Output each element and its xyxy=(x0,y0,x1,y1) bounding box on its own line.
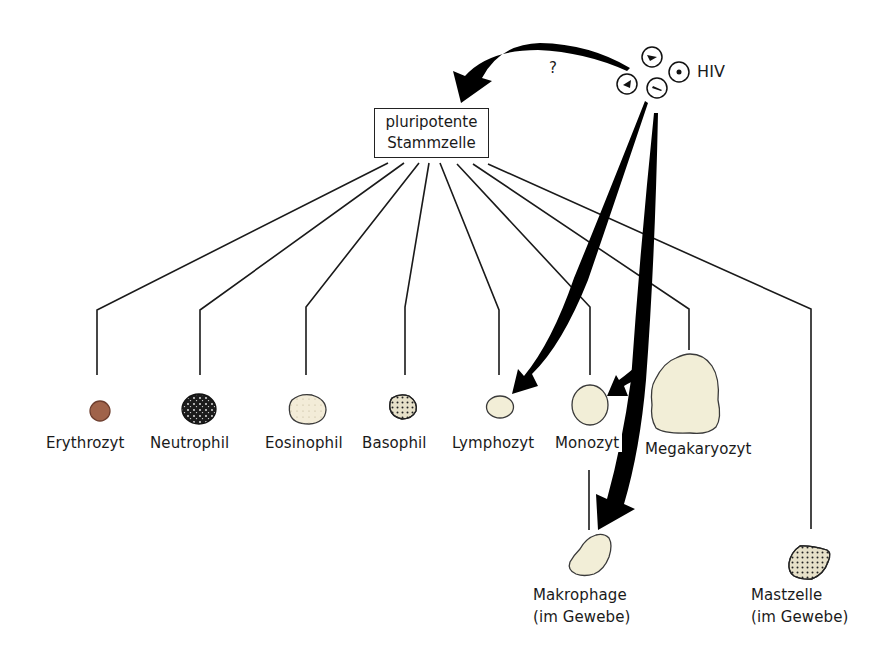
label-monozyt: Monozyt xyxy=(555,434,622,452)
arrow-to-stammzelle-icon xyxy=(453,43,630,103)
cell-eosinophil-granules-icon xyxy=(289,395,326,424)
sublabel-makrophage: (im Gewebe) xyxy=(533,608,630,626)
line-erythrozyt xyxy=(97,163,388,375)
cell-lymphozyt-icon xyxy=(487,396,514,418)
line-monozyt xyxy=(457,164,590,375)
lineage-diagram xyxy=(0,0,895,665)
cell-makrophage-icon xyxy=(569,534,611,575)
label-makrophage: Makrophage xyxy=(533,586,627,604)
cell-megakaryozyt-icon xyxy=(651,354,719,433)
line-basophil xyxy=(405,163,429,375)
hiv-core-icon xyxy=(677,70,682,75)
line-megakaryozyt xyxy=(473,164,689,350)
line-neutrophil xyxy=(200,163,404,375)
label-mastzelle: Mastzelle xyxy=(751,586,822,604)
cell-neutrophil-icon xyxy=(182,394,216,424)
label-megakaryozyt: Megakaryozyt xyxy=(645,440,752,458)
cell-monozyt-icon xyxy=(572,385,608,425)
arrow-to-lymphozyt-icon xyxy=(512,101,648,394)
label-eosinophil: Eosinophil xyxy=(265,434,343,452)
stem-cell-label-line1: pluripotente xyxy=(375,112,488,133)
cell-mastzelle-granules-icon xyxy=(789,546,830,579)
label-neutrophil: Neutrophil xyxy=(150,434,229,452)
line-lymphozyt xyxy=(440,163,499,375)
label-lymphozyt: Lymphozyt xyxy=(452,434,534,452)
hiv-label: HIV xyxy=(697,63,725,81)
label-basophil: Basophil xyxy=(362,434,427,452)
arrow-to-makrophage-icon xyxy=(596,113,658,530)
stem-cell-box: pluripotente Stammzelle xyxy=(374,108,489,158)
lineage-lines xyxy=(97,163,811,530)
stem-cell-label-line2: Stammzelle xyxy=(375,133,488,154)
sublabel-mastzelle: (im Gewebe) xyxy=(751,608,848,626)
uncertainty-mark: ? xyxy=(549,59,557,77)
line-eosinophil xyxy=(306,163,419,375)
label-erythrozyt: Erythrozyt xyxy=(46,434,125,452)
cell-erythrozyt-icon xyxy=(90,401,110,421)
cells xyxy=(90,354,830,579)
cell-basophil-granules-icon xyxy=(390,395,417,419)
